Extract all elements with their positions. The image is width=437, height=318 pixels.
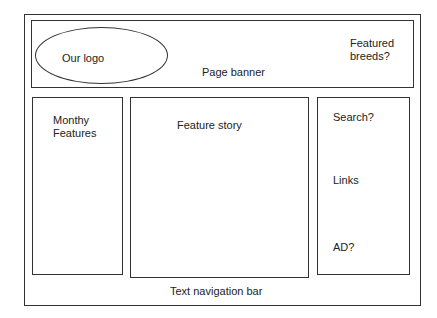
feature-story-label: Feature story bbox=[177, 118, 242, 132]
monthly-features-label-2: Features bbox=[53, 126, 96, 140]
search-label: Search? bbox=[333, 110, 374, 124]
ad-label: AD? bbox=[333, 240, 354, 254]
banner-label: Page banner bbox=[202, 65, 265, 79]
links-label: Links bbox=[333, 173, 359, 187]
featured-breeds-label-2: breeds? bbox=[350, 49, 390, 63]
text-navigation-bar-label: Text navigation bar bbox=[170, 284, 262, 298]
logo-label: Our logo bbox=[62, 51, 104, 65]
